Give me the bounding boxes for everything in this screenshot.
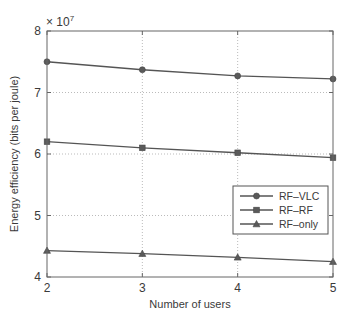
y-multiplier-label: × 107 — [46, 14, 75, 29]
circle-marker — [139, 67, 145, 73]
legend-label: RF–VLC — [279, 190, 320, 202]
y-tick-label: 4 — [34, 270, 41, 284]
x-tick-label: 3 — [139, 281, 146, 295]
grid-lines — [47, 31, 333, 277]
series-rf-vlc — [44, 59, 336, 82]
x-tick-label: 4 — [234, 281, 241, 295]
y-tick-label: 7 — [34, 86, 41, 100]
series-rf-rf — [44, 139, 336, 161]
series-line — [47, 142, 333, 158]
y-tick-label: 5 — [34, 209, 41, 223]
circle-marker — [235, 73, 241, 79]
y-tick-label: 6 — [34, 147, 41, 161]
x-tick-label: 5 — [330, 281, 337, 295]
y-tick-label: 8 — [34, 24, 41, 38]
y-axis-label: Energy efficiency (bits per joule) — [8, 76, 20, 232]
square-marker — [235, 150, 241, 156]
legend: RF–VLCRF–RFRF–only — [233, 186, 328, 234]
series-rf-only — [44, 247, 337, 264]
series-line — [47, 251, 333, 262]
legend-label: RF–only — [279, 218, 319, 230]
square-marker — [140, 145, 146, 151]
legend-label: RF–RF — [279, 204, 313, 216]
square-marker — [254, 207, 260, 213]
x-axis-label: Number of users — [149, 298, 231, 310]
series-line — [47, 62, 333, 79]
circle-marker — [254, 193, 260, 199]
x-tick-label: 2 — [44, 281, 51, 295]
line-chart: 234545678 × 107 Number of users Energy e… — [0, 0, 355, 323]
